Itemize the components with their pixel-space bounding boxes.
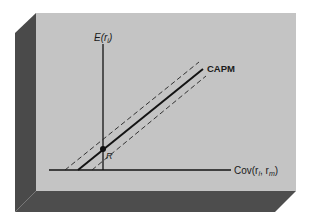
panel-left-shadow: [15, 13, 36, 212]
capm-label: CAPM: [207, 63, 235, 74]
y-axis-label: E(ri): [94, 32, 112, 44]
point-r-label: R: [106, 151, 113, 161]
panel-bottom-shadow: [15, 191, 296, 212]
capm-diagram: E(ri) CAPM R Cov(ri, rm): [0, 0, 309, 224]
